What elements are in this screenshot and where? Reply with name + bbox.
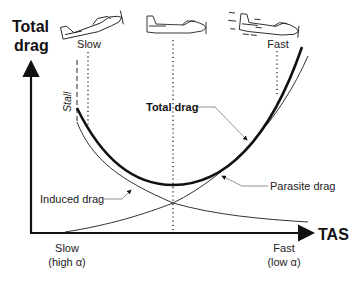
airplane-level-icon bbox=[147, 16, 206, 34]
total-drag-curve bbox=[77, 47, 302, 185]
x-axis-left-label-line1: Slow bbox=[55, 242, 79, 254]
drag-diagram: Total drag TAS Slow (high α) Fast (low α… bbox=[0, 0, 360, 281]
x-axis-right-label-line1: Fast bbox=[273, 242, 294, 254]
y-axis-label-line1: Total bbox=[12, 18, 49, 35]
induced-drag-label: Induced drag bbox=[40, 193, 104, 205]
parasite-drag-leader bbox=[222, 176, 268, 186]
top-fast-label: Fast bbox=[267, 38, 288, 50]
stall-label: Stall bbox=[61, 91, 73, 112]
induced-drag-curve bbox=[77, 122, 308, 222]
y-axis-label-line2: drag bbox=[14, 37, 49, 54]
top-slow-label: Slow bbox=[77, 38, 101, 50]
airplane-fast-icon bbox=[227, 12, 300, 39]
x-axis-label: TAS bbox=[318, 226, 349, 243]
airplane-slow-icon bbox=[60, 11, 124, 40]
total-drag-label: Total drag bbox=[146, 101, 198, 113]
total-drag-leader bbox=[196, 107, 247, 140]
parasite-drag-label: Parasite drag bbox=[270, 180, 335, 192]
parasite-drag-curve bbox=[65, 56, 308, 232]
x-axis-right-label-line2: (low α) bbox=[267, 256, 300, 268]
x-axis-left-label-line2: (high α) bbox=[48, 256, 86, 268]
induced-drag-leader bbox=[104, 190, 131, 199]
